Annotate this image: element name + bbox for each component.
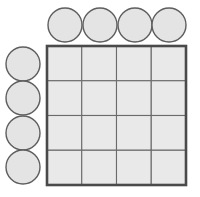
grid-cell-r0-c2[interactable] (117, 46, 152, 81)
grid-cell-r3-c0[interactable] (47, 150, 82, 185)
grid-cell-r3-c1[interactable] (82, 150, 117, 185)
grid-cell-r2-c1[interactable] (82, 116, 117, 151)
row-marker-circle-2[interactable] (6, 116, 40, 150)
column-marker-circle-0[interactable] (48, 8, 82, 42)
grid-cell-r1-c3[interactable] (151, 81, 186, 116)
grid-cell-r0-c3[interactable] (151, 46, 186, 81)
column-marker-circle-2[interactable] (118, 8, 152, 42)
grid-cell-r0-c1[interactable] (82, 46, 117, 81)
grid-cell-r3-c2[interactable] (117, 150, 152, 185)
grid-cell-r1-c1[interactable] (82, 81, 117, 116)
grid-cell-r1-c2[interactable] (117, 81, 152, 116)
grid-cells-group (47, 46, 186, 185)
column-marker-circle-1[interactable] (83, 8, 117, 42)
diagram-canvas (0, 0, 200, 197)
grid-cell-r2-c0[interactable] (47, 116, 82, 151)
grid-cell-r0-c0[interactable] (47, 46, 82, 81)
column-marker-circle-3[interactable] (152, 8, 186, 42)
row-marker-circle-0[interactable] (6, 47, 40, 81)
array-diagram-svg (0, 0, 200, 197)
grid-cell-r1-c0[interactable] (47, 81, 82, 116)
row-marker-circle-1[interactable] (6, 81, 40, 115)
grid-cell-r3-c3[interactable] (151, 150, 186, 185)
grid-cell-r2-c2[interactable] (117, 116, 152, 151)
grid-cell-r2-c3[interactable] (151, 116, 186, 151)
row-marker-circle-3[interactable] (6, 150, 40, 184)
